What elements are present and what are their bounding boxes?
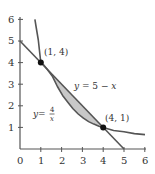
svg-text:=: = [38,109,46,119]
svg-text:2: 2 [8,100,14,111]
svg-text:4: 4 [100,155,106,166]
svg-text:1: 1 [38,155,44,166]
point-label-4-1: (4, 1) [105,113,129,123]
point-4-1 [100,124,106,130]
y-tick-labels: 1 2 3 4 5 6 [8,14,14,133]
svg-text:1: 1 [8,122,14,133]
svg-text:6: 6 [142,155,148,166]
x-tick-labels: 0 1 2 3 4 5 6 [17,155,148,166]
svg-text:x: x [50,115,54,123]
svg-text:5: 5 [121,155,127,166]
svg-text:6: 6 [8,14,14,25]
svg-text:4: 4 [8,57,14,68]
svg-text:2: 2 [59,155,65,166]
svg-text:0: 0 [17,155,23,166]
svg-text:5: 5 [8,35,14,46]
point-label-1-4: (1, 4) [44,47,68,57]
chart-canvas: 1 2 3 4 5 6 0 1 2 3 4 5 6 (1, 4) (4, 1) … [0,0,155,174]
svg-text:4: 4 [50,106,55,114]
svg-text:3: 3 [8,79,14,90]
line-y-5-minus-x [20,41,124,149]
line-label: y = 5 − x [73,81,116,91]
svg-text:3: 3 [80,155,86,166]
point-1-4 [38,60,44,66]
curve-label: y = 4 x [32,106,55,123]
